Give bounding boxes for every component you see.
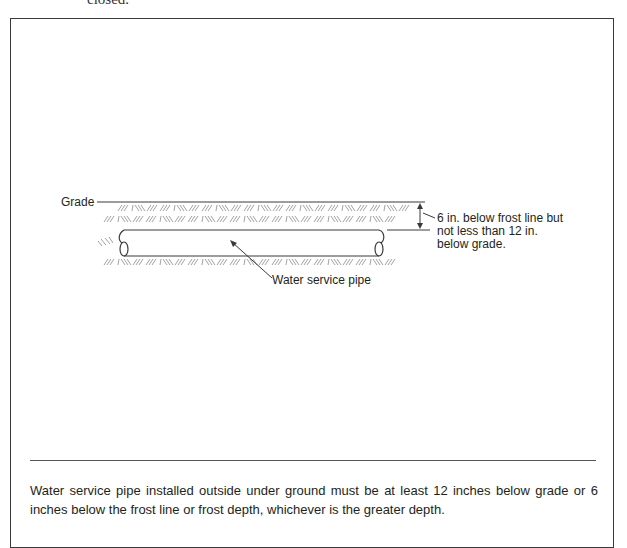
depth-requirement-label-line-3: below grade. (437, 237, 506, 251)
caption-separator (30, 460, 596, 461)
pipe-label: Water service pipe (272, 273, 371, 287)
water-service-pipe (119, 230, 384, 256)
depth-requirement-label-line-1: 6 in. below frost line but (437, 211, 563, 225)
figure-caption: Water service pipe installed outside und… (30, 481, 598, 519)
soil-hatching-top (118, 205, 409, 211)
soil-hatching-left (98, 237, 113, 246)
grade-label: Grade (61, 195, 94, 209)
soil-hatching-middle (104, 216, 395, 222)
depth-requirement-label-line-2: not less than 12 in. (437, 224, 538, 238)
soil-hatching-bottom (104, 259, 395, 265)
